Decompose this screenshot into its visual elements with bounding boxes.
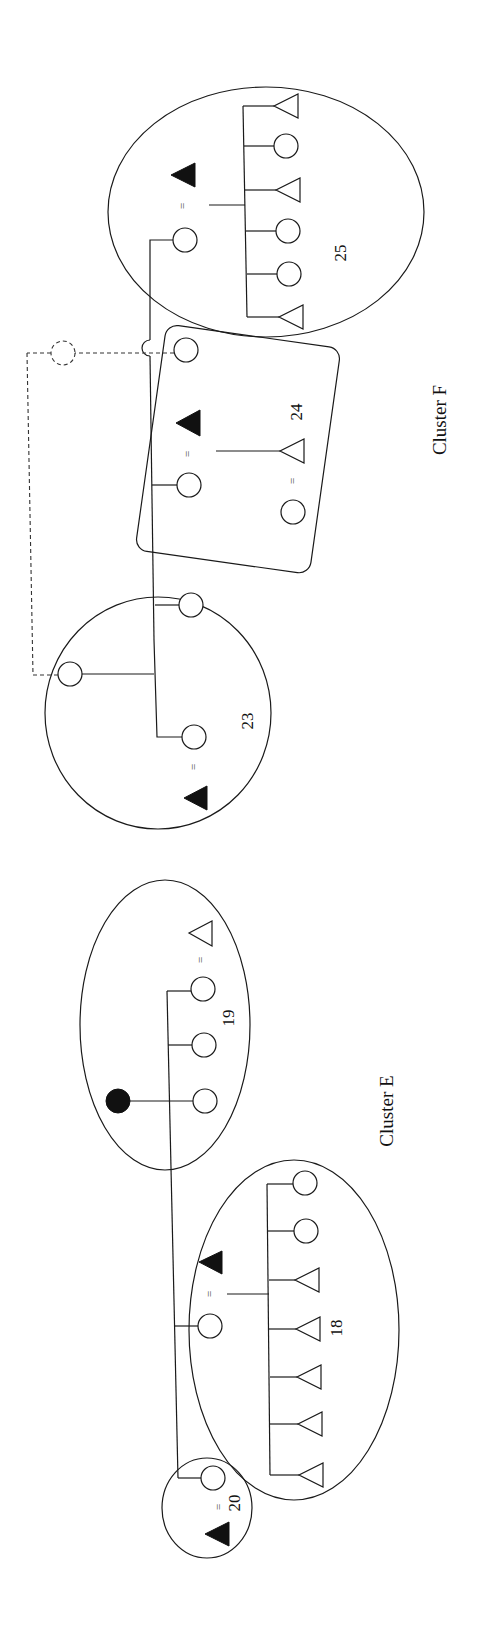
marriage-sign: = [203, 1291, 215, 1297]
male-icon [295, 1268, 319, 1292]
marriage-sign: = [181, 451, 193, 457]
cluster-f-label: Cluster F [429, 385, 450, 455]
female-icon [192, 1033, 216, 1057]
filled-female-icon [106, 1089, 130, 1113]
lineage-link-25 [150, 240, 173, 340]
female-icon [198, 1314, 222, 1338]
group-number-20: 20 [225, 1495, 244, 1512]
marriage-sign: = [286, 478, 298, 484]
cluster-e-label: Cluster E [376, 1075, 397, 1146]
group-number-23: 23 [238, 713, 257, 730]
filled-male-icon [205, 1522, 229, 1546]
male-icon [274, 94, 298, 118]
group-number-25: 25 [331, 245, 350, 262]
male-icon [298, 1412, 322, 1436]
female-icon [277, 262, 301, 286]
female-icon [201, 1466, 225, 1490]
kinship-diagram: = 25 = 24 = = 23 Cluster F [0, 0, 477, 1636]
male-icon [280, 439, 304, 463]
female-icon [274, 134, 298, 158]
male-icon [189, 921, 212, 946]
female-icon [281, 500, 305, 524]
female-icon [173, 228, 197, 252]
female-icon [294, 1219, 318, 1243]
group-25-boundary [108, 87, 424, 337]
filled-male-icon [176, 410, 200, 436]
female-icon [177, 473, 201, 497]
female-icon [293, 1171, 317, 1195]
male-icon [297, 1365, 321, 1389]
main-trunk-lower [167, 991, 178, 1478]
filled-male-icon [171, 163, 195, 187]
female-icon [58, 662, 82, 686]
female-icon [276, 219, 300, 243]
male-icon [299, 1463, 323, 1487]
marriage-sign: = [194, 957, 206, 963]
marriage-sign: = [176, 203, 188, 209]
sibling-bar-23 [154, 640, 182, 737]
sibling-bar-25 [243, 106, 247, 317]
group-number-24: 24 [287, 403, 306, 421]
female-icon [179, 593, 203, 617]
female-icon [182, 725, 206, 749]
female-icon [191, 977, 215, 1001]
male-icon [296, 1317, 320, 1341]
female-icon [174, 338, 198, 362]
dashed-female-icon [51, 341, 75, 365]
marriage-sign: = [212, 1504, 224, 1510]
group-number-18: 18 [327, 1320, 346, 1337]
filled-male-icon [184, 786, 207, 810]
line-crossing-hump [142, 340, 150, 356]
group-24-boundary [135, 324, 341, 574]
filled-male-icon [199, 1251, 222, 1274]
dashed-link [27, 353, 33, 675]
male-icon [279, 305, 303, 329]
group-number-19: 19 [219, 1010, 238, 1027]
female-icon [193, 1089, 217, 1113]
male-icon [276, 178, 300, 202]
marriage-sign: = [187, 764, 199, 770]
